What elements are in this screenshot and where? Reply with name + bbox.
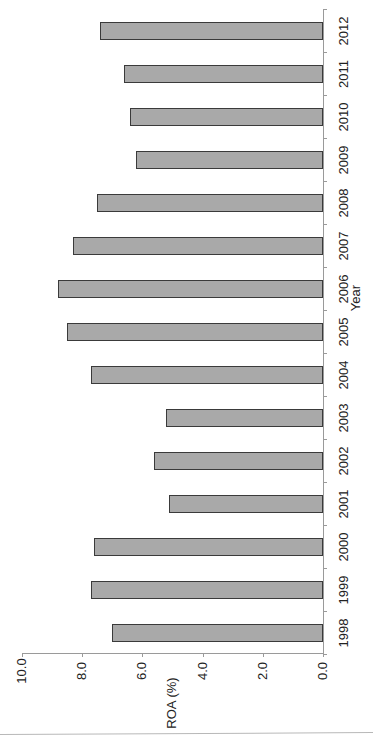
year-label-2003: 2003 [336,398,352,438]
category-tick [323,95,327,96]
category-tick [323,611,327,612]
year-label-2008: 2008 [336,183,352,223]
year-label-2011: 2011 [336,54,352,94]
category-tick [323,138,327,139]
year-label-2004: 2004 [336,355,352,395]
year-label-1998: 1998 [336,613,352,653]
x-axis-title: Year [348,278,364,318]
bar-2003 [166,409,323,427]
category-tick [323,396,327,397]
category-tick [323,310,327,311]
bar-2002 [154,452,323,470]
bar-2001 [169,495,323,513]
year-label-2000: 2000 [336,527,352,567]
year-label-2010: 2010 [336,97,352,137]
category-tick [323,525,327,526]
category-tick [323,267,327,268]
year-label-2007: 2007 [336,226,352,266]
bar-2008 [97,194,323,212]
year-label-2009: 2009 [336,140,352,180]
category-tick [323,568,327,569]
year-label-2001: 2001 [336,484,352,524]
category-axis-line [323,9,324,654]
value-axis-line [22,653,324,654]
bar-2010 [130,108,323,126]
value-tick-label: 10.0 [14,654,30,688]
bar-2006 [58,280,323,298]
bar-2007 [73,237,323,255]
category-tick [323,482,327,483]
bar-2012 [100,22,323,40]
bar-2011 [124,65,323,83]
category-tick [323,353,327,354]
value-tick-label: 2.0 [255,654,271,688]
bar-2000 [94,538,323,556]
value-tick-label: 0.0 [315,654,331,688]
y-axis-title: ROA (%) [164,673,180,733]
value-tick-label: 6.0 [134,654,150,688]
category-tick [323,224,327,225]
bar-1998 [112,624,323,642]
year-label-2002: 2002 [336,441,352,481]
bar-2005 [67,323,323,341]
category-tick [323,181,327,182]
year-label-2012: 2012 [336,11,352,51]
bar-2009 [136,151,323,169]
bar-1999 [91,581,323,599]
value-tick-label: 8.0 [74,654,90,688]
roa-bar-chart: 1998199920002001200220032004200520062007… [0,0,373,735]
year-label-1999: 1999 [336,570,352,610]
category-tick [323,439,327,440]
bar-2004 [91,366,323,384]
category-tick [323,52,327,53]
value-tick-label: 4.0 [195,654,211,688]
category-tick [323,9,327,10]
